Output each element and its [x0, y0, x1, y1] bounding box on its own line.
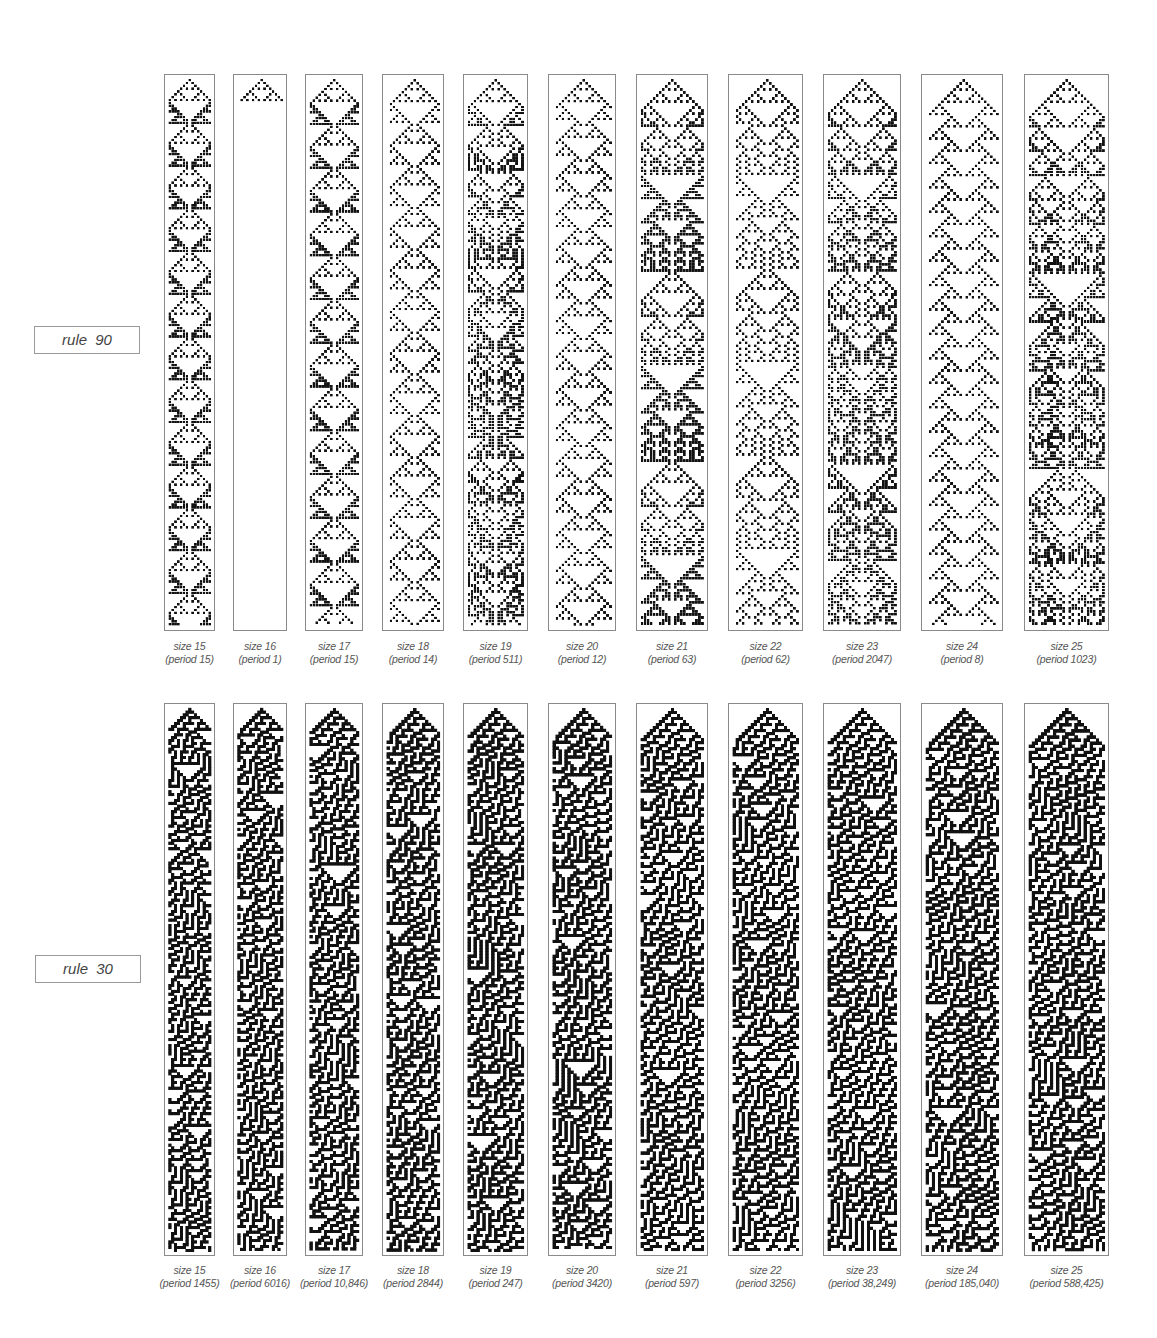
panel-caption: size 15(period 15): [165, 640, 214, 666]
period-label: (period 10,846): [300, 1277, 368, 1290]
ca-pattern: [383, 75, 443, 630]
period-label: (period 3256): [736, 1277, 796, 1290]
ca-pattern: [922, 75, 1002, 630]
period-label: (period 63): [648, 653, 697, 666]
ca-pattern: [549, 75, 615, 630]
period-label: (period 185,040): [925, 1277, 999, 1290]
ca-panel-rule90-size-18: [382, 74, 444, 631]
panel-caption: size 22(period 62): [741, 640, 790, 666]
ca-panel-rule90-size-20: [548, 74, 616, 631]
ca-pattern: [306, 704, 362, 1255]
ca-panel-rule30-size-24: [921, 703, 1003, 1256]
size-label: size 15: [160, 1264, 220, 1277]
size-label: size 17: [310, 640, 359, 653]
size-label: size 25: [1030, 1264, 1104, 1277]
period-label: (period 14): [389, 653, 438, 666]
size-label: size 25: [1037, 640, 1097, 653]
period-label: (period 3420): [552, 1277, 612, 1290]
ca-panel-rule90-size-24: [921, 74, 1003, 631]
period-label: (period 247): [468, 1277, 522, 1290]
ca-panel-rule90-size-17: [305, 74, 363, 631]
ca-pattern: [234, 75, 286, 630]
ca-pattern: [729, 75, 802, 630]
panel-caption: size 20(period 12): [558, 640, 607, 666]
ca-panel-rule90-size-22: [728, 74, 803, 631]
ca-pattern: [824, 75, 900, 630]
panel-caption: size 24(period 185,040): [925, 1264, 999, 1290]
size-label: size 24: [941, 640, 984, 653]
period-label: (period 511): [469, 653, 522, 666]
period-label: (period 1): [239, 653, 282, 666]
ca-pattern: [306, 75, 362, 630]
panel-caption: size 20(period 3420): [552, 1264, 612, 1290]
size-label: size 19: [469, 640, 522, 653]
size-label: size 23: [828, 1264, 896, 1277]
size-label: size 18: [389, 640, 438, 653]
ca-panel-rule90-size-23: [823, 74, 901, 631]
size-label: size 22: [736, 1264, 796, 1277]
size-label: size 16: [230, 1264, 290, 1277]
ca-pattern: [165, 75, 214, 630]
panel-caption: size 18(period 14): [389, 640, 438, 666]
panel-caption: size 24(period 8): [941, 640, 984, 666]
ca-pattern: [383, 704, 443, 1255]
size-label: size 24: [925, 1264, 999, 1277]
ca-pattern: [1025, 75, 1108, 630]
size-label: size 23: [832, 640, 892, 653]
period-label: (period 8): [941, 653, 984, 666]
period-label: (period 2047): [832, 653, 892, 666]
ca-pattern: [464, 75, 527, 630]
panel-caption: size 25(period 1023): [1037, 640, 1097, 666]
panel-caption: size 21(period 63): [648, 640, 697, 666]
panel-caption: size 19(period 511): [469, 640, 522, 666]
period-label: (period 1455): [160, 1277, 220, 1290]
ca-pattern: [637, 704, 707, 1255]
ca-pattern: [729, 704, 802, 1255]
ca-panel-rule30-size-17: [305, 703, 363, 1256]
ca-pattern: [464, 704, 527, 1255]
period-label: (period 1023): [1037, 653, 1097, 666]
panel-caption: size 16(period 1): [239, 640, 282, 666]
period-label: (period 588,425): [1030, 1277, 1104, 1290]
size-label: size 20: [552, 1264, 612, 1277]
period-label: (period 12): [558, 653, 607, 666]
size-label: size 17: [300, 1264, 368, 1277]
panel-caption: size 25(period 588,425): [1030, 1264, 1104, 1290]
ca-panel-rule30-size-25: [1024, 703, 1109, 1256]
period-label: (period 2844): [383, 1277, 443, 1290]
panel-caption: size 22(period 3256): [736, 1264, 796, 1290]
ca-pattern: [165, 704, 214, 1255]
ca-panel-rule90-size-16: [233, 74, 287, 631]
period-label: (period 15): [165, 653, 214, 666]
period-label: (period 597): [645, 1277, 699, 1290]
period-label: (period 62): [741, 653, 790, 666]
size-label: size 18: [383, 1264, 443, 1277]
panel-caption: size 18(period 2844): [383, 1264, 443, 1290]
ca-panel-rule30-size-19: [463, 703, 528, 1256]
ca-panel-rule30-size-16: [233, 703, 287, 1256]
ca-pattern: [1025, 704, 1108, 1255]
ca-pattern: [549, 704, 615, 1255]
ca-panel-rule90-size-15: [164, 74, 215, 631]
size-label: size 20: [558, 640, 607, 653]
period-label: (period 38,249): [828, 1277, 896, 1290]
rule-label-rule90: rule 90: [34, 326, 140, 354]
size-label: size 15: [165, 640, 214, 653]
rule-label-rule30: rule 30: [35, 955, 141, 983]
ca-pattern: [234, 704, 286, 1255]
panel-caption: size 19(period 247): [468, 1264, 522, 1290]
size-label: size 21: [648, 640, 697, 653]
ca-panel-rule30-size-21: [636, 703, 708, 1256]
panel-caption: size 17(period 10,846): [300, 1264, 368, 1290]
ca-panel-rule30-size-18: [382, 703, 444, 1256]
size-label: size 16: [239, 640, 282, 653]
size-label: size 21: [645, 1264, 699, 1277]
ca-panel-rule90-size-21: [636, 74, 708, 631]
size-label: size 22: [741, 640, 790, 653]
ca-panel-rule90-size-19: [463, 74, 528, 631]
panel-caption: size 21(period 597): [645, 1264, 699, 1290]
panel-caption: size 23(period 38,249): [828, 1264, 896, 1290]
size-label: size 19: [468, 1264, 522, 1277]
ca-panel-rule30-size-23: [823, 703, 901, 1256]
ca-panel-rule30-size-20: [548, 703, 616, 1256]
